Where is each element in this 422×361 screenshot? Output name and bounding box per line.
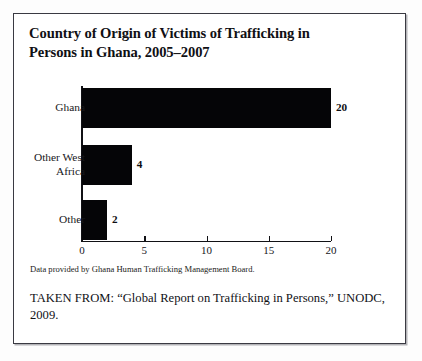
x-tick-label: 10: [192, 244, 222, 256]
x-tick-label: 15: [254, 244, 284, 256]
x-tick-label: 20: [316, 244, 346, 256]
bar-value-label: 20: [336, 101, 347, 113]
x-tick-mark: [269, 236, 270, 241]
data-attribution-note: Data provided by Ghana Human Trafficking…: [30, 263, 390, 275]
x-tick-mark: [207, 236, 208, 241]
figure-container: Country of Origin of Victims of Traffick…: [13, 13, 406, 344]
x-tick-label: 0: [67, 244, 97, 256]
category-label: Other WestAfrica: [13, 151, 85, 178]
bar-value-label: 4: [137, 158, 143, 170]
x-tick-mark: [144, 236, 145, 241]
category-label-line: Other West: [13, 151, 85, 165]
x-tick-label: 5: [129, 244, 159, 256]
bar-value-label: 2: [112, 213, 118, 225]
x-tick-mark: [331, 236, 332, 241]
bar: [82, 145, 132, 185]
source-citation: TAKEN FROM: “Global Report on Traffickin…: [30, 290, 385, 324]
bar: [82, 88, 331, 128]
bar: [82, 200, 107, 240]
category-label: Other: [13, 213, 85, 227]
category-label-line: Africa: [13, 165, 85, 179]
category-label: Ghana: [13, 101, 85, 115]
